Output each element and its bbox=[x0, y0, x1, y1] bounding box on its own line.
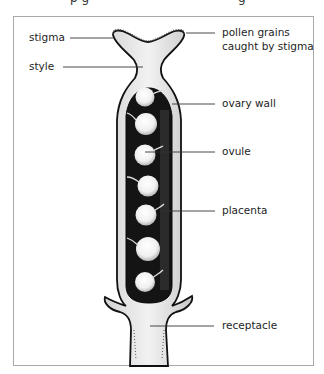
ovule-1 bbox=[136, 88, 155, 107]
placenta-strip bbox=[160, 110, 169, 290]
ovule-2 bbox=[135, 113, 157, 135]
label-pollen-caught: caught by stigma bbox=[222, 40, 314, 53]
ovule-7 bbox=[135, 272, 155, 292]
ovule-6 bbox=[136, 237, 160, 261]
label-placenta: placenta bbox=[222, 204, 267, 217]
ovule-4 bbox=[138, 176, 159, 197]
label-ovary-wall: ovary wall bbox=[222, 97, 276, 110]
ovule-5 bbox=[136, 205, 157, 226]
label-receptacle: receptacle bbox=[222, 319, 277, 332]
label-pollen-grains: pollen grains bbox=[222, 26, 290, 39]
label-stigma: stigma bbox=[29, 31, 65, 44]
ovule-3 bbox=[135, 145, 156, 166]
pistil-diagram bbox=[0, 0, 324, 374]
label-style: style bbox=[29, 60, 54, 73]
label-ovule: ovule bbox=[222, 145, 251, 158]
